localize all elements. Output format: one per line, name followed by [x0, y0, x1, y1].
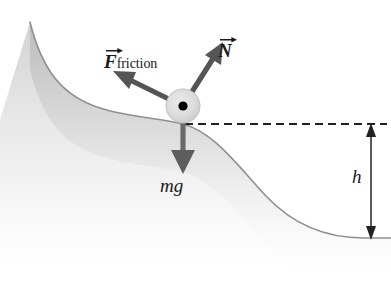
height-dimension-arrow	[366, 123, 376, 240]
height-arrow-head-top	[366, 123, 376, 137]
weight-label: mg	[160, 176, 183, 195]
height-label: h	[352, 167, 362, 186]
block-center-dot	[178, 101, 187, 110]
normal-letter: N	[218, 40, 232, 61]
normal-force-label: N	[218, 41, 232, 60]
friction-letter: F	[104, 51, 117, 72]
normal-vector-symbol: N	[218, 41, 232, 60]
friction-vector-symbol: F	[104, 52, 117, 71]
diagram-canvas	[0, 0, 391, 287]
friction-subscript: friction	[117, 55, 158, 71]
hill-terrain	[0, 22, 391, 287]
friction-label: F friction	[104, 52, 157, 71]
block-on-slope	[166, 89, 200, 123]
physics-diagram: F friction N mg h	[0, 0, 391, 287]
